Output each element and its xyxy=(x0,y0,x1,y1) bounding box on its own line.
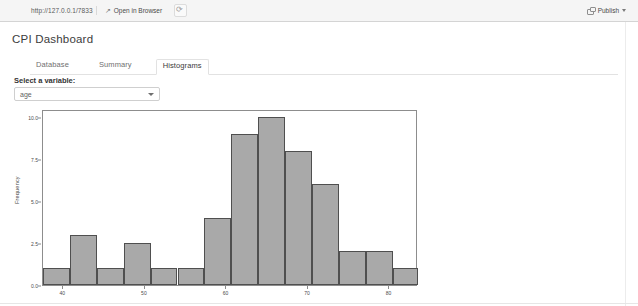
variable-select-value: age xyxy=(20,91,32,98)
histogram-bar xyxy=(285,151,312,285)
histogram-bar xyxy=(312,184,339,285)
y-axis-tick-label: 5.0 xyxy=(31,199,38,205)
tab-summary[interactable]: Summary xyxy=(93,59,138,71)
histogram-bar xyxy=(258,117,285,285)
histogram-bar xyxy=(97,268,124,285)
page-title: CPI Dashboard xyxy=(12,33,93,45)
bottom-divider xyxy=(0,303,638,304)
right-divider xyxy=(625,22,626,306)
histogram-bars xyxy=(43,111,416,285)
histogram-bar xyxy=(124,243,151,285)
y-axis-tick-mark xyxy=(38,244,41,245)
x-axis-tick-label: 70 xyxy=(304,290,310,296)
toolbar-right-group: Publish xyxy=(587,7,638,15)
y-axis-ticks: 0.02.55.07.510.0 xyxy=(22,108,38,304)
open-in-browser-button[interactable]: ↗ Open in Browser xyxy=(102,6,165,16)
y-axis-tick-label: 2.5 xyxy=(31,241,38,247)
x-axis-tick-mark xyxy=(388,286,389,289)
y-axis-tick-mark xyxy=(38,202,41,203)
x-axis-tick-mark xyxy=(62,286,63,289)
url-display[interactable]: http://127.0.0.1/7833 xyxy=(28,6,97,15)
histogram-bar xyxy=(339,251,366,285)
histogram-bar xyxy=(366,251,393,285)
x-axis-tick-label: 40 xyxy=(60,290,66,296)
chevron-down-icon[interactable] xyxy=(622,9,626,12)
y-axis-tick-mark xyxy=(38,118,41,119)
histogram-bar xyxy=(393,268,418,285)
y-axis-tick-mark xyxy=(38,160,41,161)
x-axis-ticks: 4050607080 xyxy=(42,286,417,302)
external-link-icon: ↗ xyxy=(105,7,111,15)
tab-database[interactable]: Database xyxy=(30,59,75,71)
x-axis-tick-label: 60 xyxy=(223,290,229,296)
app-page: CPI Dashboard Database Summary Histogram… xyxy=(0,22,638,306)
variable-select[interactable]: age xyxy=(14,87,160,101)
x-axis-tick-mark xyxy=(307,286,308,289)
histogram-bar xyxy=(151,268,178,285)
histogram-chart: Frequency 0.02.55.07.510.0 4050607080 xyxy=(8,108,418,304)
histogram-bar xyxy=(178,268,205,285)
tab-histograms[interactable]: Histograms xyxy=(156,59,209,75)
y-axis-tick-label: 10.0 xyxy=(28,115,38,121)
plot-area xyxy=(42,110,417,286)
x-axis-tick-mark xyxy=(144,286,145,289)
tab-bar: Database Summary Histograms xyxy=(30,59,618,75)
open-in-browser-label: Open in Browser xyxy=(114,7,162,14)
histogram-bar xyxy=(231,134,258,285)
y-axis-tick-label: 0.0 xyxy=(31,283,38,289)
publish-label[interactable]: Publish xyxy=(598,7,619,14)
chevron-down-icon xyxy=(148,93,154,96)
histogram-bar xyxy=(43,268,70,285)
histogram-bar xyxy=(70,235,97,285)
x-axis-tick-label: 50 xyxy=(141,290,147,296)
variable-select-label: Select a variable: xyxy=(14,76,75,85)
y-axis-tick-mark xyxy=(38,286,41,287)
y-axis-label: Frequency xyxy=(14,176,20,204)
y-axis-tick-label: 7.5 xyxy=(31,157,38,163)
reload-icon[interactable] xyxy=(174,4,187,17)
histogram-bar xyxy=(204,218,231,285)
x-axis-tick-label: 80 xyxy=(386,290,392,296)
x-axis-tick-mark xyxy=(225,286,226,289)
toolbar-left-group: http://127.0.0.1/7833 ↗ Open in Browser xyxy=(0,4,187,17)
publish-icon xyxy=(587,7,595,15)
browser-toolbar: http://127.0.0.1/7833 ↗ Open in Browser … xyxy=(0,0,638,22)
